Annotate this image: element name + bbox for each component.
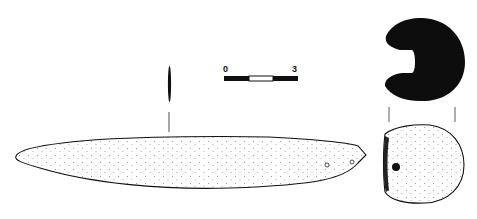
perforation-2	[350, 160, 354, 164]
scale-end-label: 3	[292, 64, 297, 74]
elongated-artifact-plan	[16, 137, 366, 189]
cross-section-c-shape	[385, 18, 465, 101]
long-section-profile	[168, 66, 171, 132]
dark-dot	[392, 163, 400, 171]
scale-start-label: 0	[223, 64, 228, 74]
artifact-drawing	[0, 0, 477, 219]
perforation-1	[325, 163, 329, 167]
end-view-rounded	[384, 125, 465, 203]
scale-bar	[224, 76, 298, 81]
